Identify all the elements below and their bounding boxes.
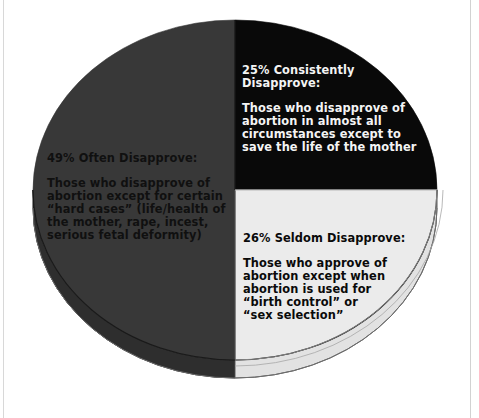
pie-label-consistently-disapprove: 25% Consistently Disapprove: Those who d… xyxy=(242,64,438,154)
pie-label-description-often: Those who disapprove of abortion except … xyxy=(47,177,237,242)
scanned-page-background: 25% Consistently Disapprove: Those who d… xyxy=(0,0,479,418)
pie-label-heading-seldom: 26% Seldom Disapprove: xyxy=(243,232,439,245)
pie-label-heading-often: 49% Often Disapprove: xyxy=(47,152,237,165)
pie-chart-figure: 25% Consistently Disapprove: Those who d… xyxy=(0,0,479,418)
pie-label-description-consistently: Those who disapprove of abortion in almo… xyxy=(242,102,438,154)
pie-label-seldom-disapprove: 26% Seldom Disapprove: Those who approve… xyxy=(243,232,439,322)
pie-label-heading-consistently: 25% Consistently Disapprove: xyxy=(242,64,438,90)
pie-label-often-disapprove: 49% Often Disapprove: Those who disappro… xyxy=(47,152,237,242)
pie-label-description-seldom: Those who approve of abortion except whe… xyxy=(243,257,439,322)
